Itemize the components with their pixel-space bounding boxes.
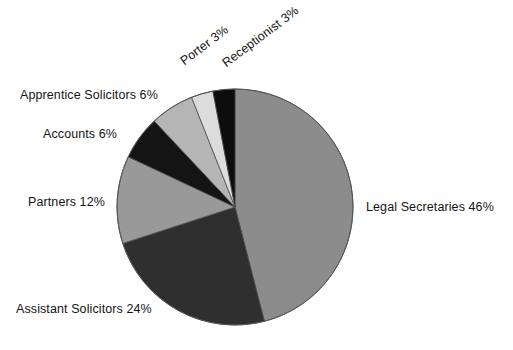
pie-chart: Legal Secretaries 46% Assistant Solicito… (0, 0, 513, 350)
pie-label-accounts: Accounts 6% (43, 127, 117, 141)
pie-label-apprentice-solicitors: Apprentice Solicitors 6% (20, 88, 158, 102)
pie-label-partners: Partners 12% (28, 195, 105, 209)
pie-chart-canvas (0, 0, 513, 350)
pie-label-legal-secretaries: Legal Secretaries 46% (366, 200, 494, 214)
pie-label-assistant-solicitors: Assistant Solicitors 24% (16, 302, 152, 316)
pie-slice-group (117, 89, 353, 325)
